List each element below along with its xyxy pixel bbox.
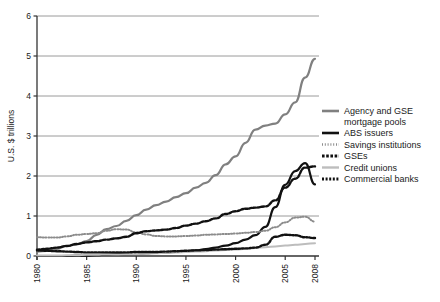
x-tick-label: 1980 xyxy=(32,264,42,283)
legend-item[interactable]: ABS issuers xyxy=(322,128,394,138)
y-tick-label: 6 xyxy=(26,11,31,21)
x-tick-labels: 1980198519901995200020052008 xyxy=(32,256,320,283)
legend-label-continued: mortgage pools xyxy=(344,117,407,127)
series-line xyxy=(37,59,315,252)
x-tick-label: 1985 xyxy=(82,264,92,283)
y-tick-label: 3 xyxy=(26,131,31,141)
line-chart-canvas: 0123456 1980198519901995200020052008 U.S… xyxy=(0,0,440,302)
legend-label: Agency and GSE xyxy=(344,106,413,116)
y-axis-title: U.S. $ trillions xyxy=(6,110,16,162)
x-tick-label: 2008 xyxy=(310,264,320,283)
y-axis-label: U.S. $ trillions xyxy=(6,110,16,162)
gridlines xyxy=(37,16,319,256)
x-tick-label: 2005 xyxy=(280,264,290,283)
legend-label: Savings institutions xyxy=(344,140,422,150)
chart-figure: 0123456 1980198519901995200020052008 U.S… xyxy=(0,0,440,302)
x-tick-label: 1995 xyxy=(181,264,191,283)
y-tick-labels: 0123456 xyxy=(26,11,37,261)
legend-item[interactable]: GSEs xyxy=(322,151,368,161)
legend-item[interactable]: Agency and GSEmortgage pools xyxy=(322,106,413,127)
legend-item[interactable]: Savings institutions xyxy=(322,140,422,150)
y-tick-label: 5 xyxy=(26,51,31,61)
chart-legend: Agency and GSEmortgage poolsABS issuersS… xyxy=(322,106,422,184)
legend-label: GSEs xyxy=(344,151,368,161)
series-line xyxy=(37,163,315,256)
series-lines xyxy=(37,59,315,256)
x-tick-label: 2000 xyxy=(231,264,241,283)
legend-label: ABS issuers xyxy=(344,128,394,138)
y-tick-label: 1 xyxy=(26,211,31,221)
legend-item[interactable]: Credit unions xyxy=(322,163,398,173)
legend-label: Credit unions xyxy=(344,163,398,173)
y-tick-label: 4 xyxy=(26,91,31,101)
y-tick-label: 0 xyxy=(26,251,31,261)
y-tick-label: 2 xyxy=(26,171,31,181)
legend-item[interactable]: Commercial banks xyxy=(322,174,419,184)
axis-lines xyxy=(37,16,319,260)
legend-label: Commercial banks xyxy=(344,174,419,184)
x-tick-label: 1990 xyxy=(131,264,141,283)
